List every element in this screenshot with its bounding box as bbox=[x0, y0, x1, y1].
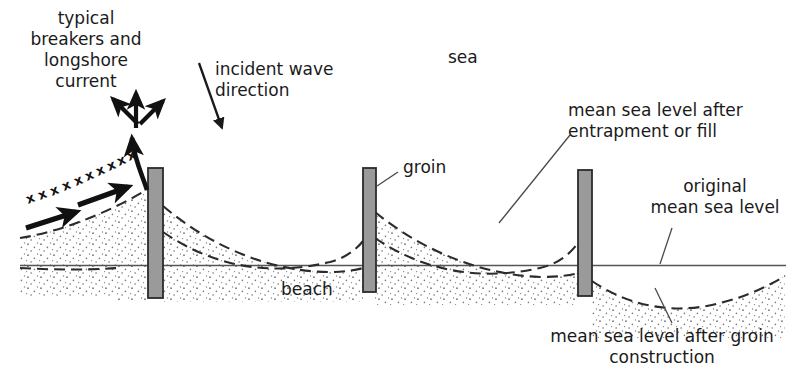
label-original-msl: original mean sea level bbox=[640, 176, 790, 218]
drift-arrow-lower-icon bbox=[26, 212, 76, 228]
sand-left-below-baseline bbox=[118, 268, 148, 300]
arrow-up-right-icon bbox=[140, 101, 163, 124]
leader-original-msl bbox=[660, 228, 672, 264]
svg-text:x: x bbox=[60, 177, 74, 194]
leader-entrapment bbox=[499, 135, 570, 223]
breaker-crest-marks-icon: x x x x x x x x x x bbox=[24, 147, 139, 207]
label-msl-after-construction: mean sea level after groin construction bbox=[533, 326, 791, 368]
sand-bay-two bbox=[375, 212, 578, 305]
label-typical-breakers: typical breakers and longshore current bbox=[18, 8, 154, 92]
groin-right[interactable] bbox=[578, 170, 592, 296]
svg-text:x: x bbox=[48, 182, 62, 199]
label-sea: sea bbox=[448, 47, 478, 68]
groin-left[interactable] bbox=[148, 168, 163, 298]
leader-groin bbox=[377, 172, 398, 186]
svg-text:x: x bbox=[24, 190, 38, 207]
drift-arrow-upper-icon bbox=[78, 187, 128, 205]
longshore-arrow-cluster bbox=[113, 93, 163, 128]
label-groin: groin bbox=[403, 157, 446, 178]
label-incident-wave-direction: incident wave direction bbox=[215, 59, 365, 101]
svg-text:x: x bbox=[36, 186, 50, 203]
label-msl-after-entrapment: mean sea level after entrapment or fill bbox=[568, 100, 793, 142]
label-beach: beach bbox=[281, 279, 333, 300]
groin-diagram: x x x x x x x x x x bbox=[0, 0, 798, 382]
sand-bay-one bbox=[163, 206, 363, 302]
groin-middle[interactable] bbox=[363, 168, 376, 292]
curved-arrow-up-icon bbox=[132, 138, 147, 190]
